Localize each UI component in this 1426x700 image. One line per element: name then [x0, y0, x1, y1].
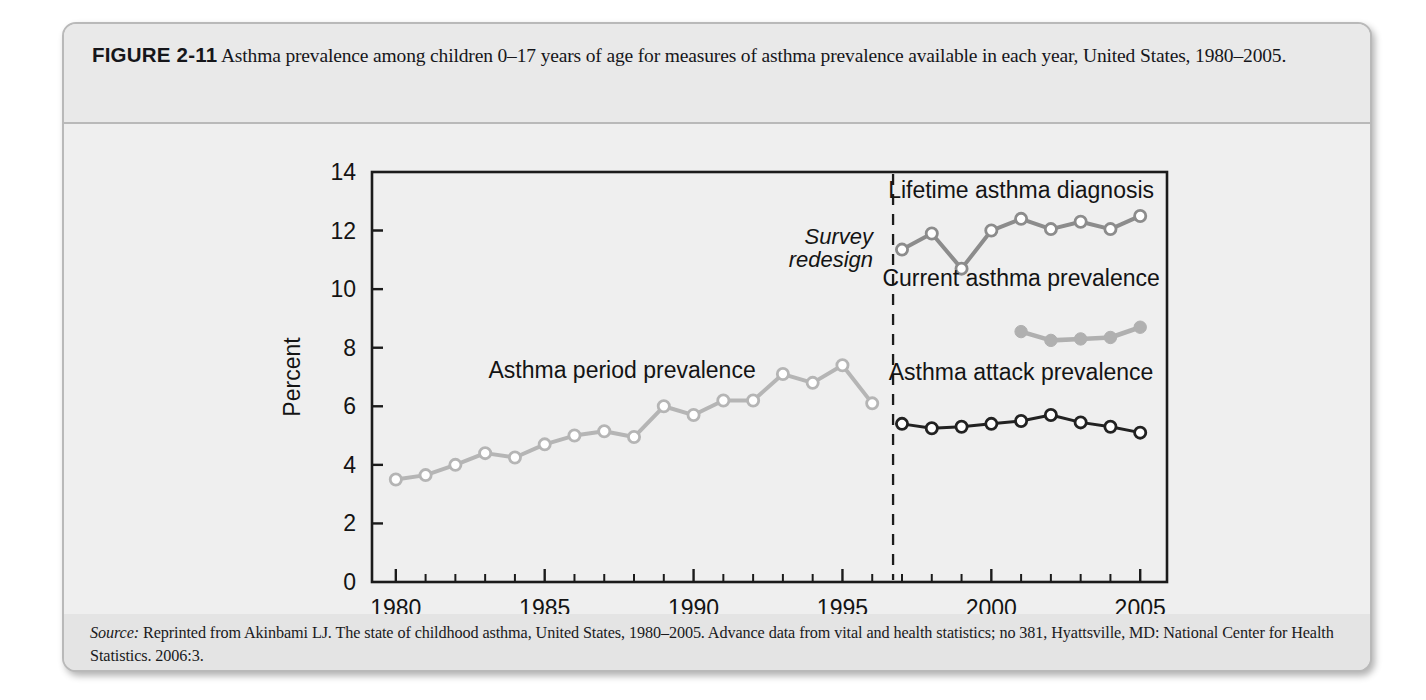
y-tick-labels: 02468101214 [330, 159, 356, 595]
data-point [390, 474, 401, 485]
x-tick-label: 1990 [668, 595, 719, 614]
data-point [837, 360, 848, 371]
data-point [420, 470, 431, 481]
x-tick-label: 1980 [370, 595, 421, 614]
data-point [509, 452, 520, 463]
data-point [1074, 333, 1086, 345]
data-point [450, 459, 461, 470]
x-tick-labels: 198019851990199520002005 [370, 595, 1166, 614]
data-point [1105, 421, 1116, 432]
series-labels-group: Asthma period prevalenceLifetime asthma … [489, 177, 1160, 385]
figure-caption: FIGURE 2-11 Asthma prevalence among chil… [92, 41, 1348, 70]
chart-panel: 02468101214 198019851990199520002005 Per… [64, 124, 1370, 616]
data-point [1045, 334, 1057, 346]
series-label-current-asthma-prevalence: Current asthma prevalence [882, 265, 1159, 291]
source-citation: Source: Reprinted from Akinbami LJ. The … [90, 622, 1354, 668]
series-label-asthma-attack-prevalence: Asthma attack prevalence [889, 359, 1154, 385]
y-tick-label: 0 [343, 569, 356, 595]
survey-redesign-annotation: Surveyredesign [789, 174, 893, 580]
data-point [926, 423, 937, 434]
asthma-prevalence-line-chart: 02468101214 198019851990199520002005 Per… [64, 124, 1370, 614]
data-point [1075, 216, 1086, 227]
figure-number-label: FIGURE 2-11 [92, 43, 217, 66]
data-point [748, 395, 759, 406]
y-tick-label: 8 [343, 335, 356, 361]
data-point [1045, 224, 1056, 235]
y-tick-label: 12 [330, 218, 356, 244]
data-point [1015, 325, 1027, 337]
series-current-asthma-prevalence [1015, 321, 1147, 347]
source-citation-text: Reprinted from Akinbami LJ. The state of… [90, 624, 1334, 665]
data-point [1134, 321, 1146, 333]
series-label-asthma-period-prevalence: Asthma period prevalence [489, 357, 756, 383]
data-point [599, 426, 610, 437]
series-label-lifetime-asthma-diagnosis: Lifetime asthma diagnosis [888, 177, 1154, 203]
data-point [956, 421, 967, 432]
data-point [718, 395, 729, 406]
data-point [480, 448, 491, 459]
data-point [986, 225, 997, 236]
y-axis-title: Percent [279, 337, 305, 417]
data-point [1075, 417, 1086, 428]
y-tick-label: 4 [343, 452, 356, 478]
x-tick-label: 1985 [519, 595, 570, 614]
figure-card: FIGURE 2-11 Asthma prevalence among chil… [62, 22, 1372, 672]
y-tick-label: 10 [330, 276, 356, 302]
data-point [1135, 427, 1146, 438]
data-point [1104, 331, 1116, 343]
data-point [628, 431, 639, 442]
data-point [1105, 224, 1116, 235]
y-tick-label: 2 [343, 510, 356, 536]
x-tick-label: 2005 [1115, 595, 1166, 614]
data-point [867, 398, 878, 409]
y-tick-label: 14 [330, 159, 356, 185]
data-point [1016, 213, 1027, 224]
data-point [1135, 210, 1146, 221]
source-band: Source: Reprinted from Akinbami LJ. The … [64, 614, 1370, 670]
data-point [986, 418, 997, 429]
data-series-group [390, 210, 1146, 485]
x-tick-label: 2000 [966, 595, 1017, 614]
survey-redesign-label-line2: redesign [789, 247, 873, 272]
y-axis-label: Percent [279, 337, 305, 417]
data-point [658, 401, 669, 412]
figure-caption-band: FIGURE 2-11 Asthma prevalence among chil… [64, 24, 1370, 124]
series-asthma-attack-prevalence [896, 409, 1145, 438]
survey-redesign-label-line1: Survey [805, 224, 875, 249]
data-point [1016, 415, 1027, 426]
x-tick-label: 1995 [817, 595, 868, 614]
data-point [807, 377, 818, 388]
data-point [688, 409, 699, 420]
data-point [569, 430, 580, 441]
data-point [539, 439, 550, 450]
y-tick-label: 6 [343, 393, 356, 419]
figure-caption-text: Asthma prevalence among children 0–17 ye… [221, 45, 1286, 66]
source-label: Source: [90, 624, 139, 642]
data-point [896, 244, 907, 255]
chart-stage: 02468101214 198019851990199520002005 Per… [64, 124, 1370, 614]
data-point [1045, 409, 1056, 420]
data-point [896, 418, 907, 429]
data-point [777, 368, 788, 379]
data-point [926, 228, 937, 239]
